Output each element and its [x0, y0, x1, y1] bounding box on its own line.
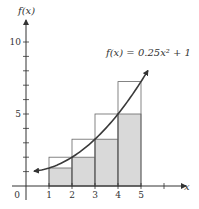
lower-rectangle	[49, 168, 72, 186]
x-tick-label: 2	[69, 190, 75, 200]
x-axis-label: x	[184, 181, 190, 192]
x-tick-label: 1	[46, 190, 52, 200]
y-tick-label: 5	[15, 109, 21, 119]
y-tick-label: 10	[10, 37, 22, 47]
y-axis-label: f(x)	[17, 5, 35, 16]
x-tick-label: 3	[92, 190, 98, 200]
origin-label: 0	[14, 190, 20, 200]
x-tick-label: 5	[138, 190, 144, 200]
riemann-sum-chart: 123455100 f(x) x f(x) = 0.25x² + 1	[0, 0, 199, 209]
lower-rectangle	[72, 157, 95, 186]
lower-rectangle	[95, 139, 118, 186]
function-label: f(x) = 0.25x² + 1	[105, 47, 191, 58]
lower-rectangle	[118, 114, 141, 186]
x-tick-label: 4	[115, 190, 121, 200]
